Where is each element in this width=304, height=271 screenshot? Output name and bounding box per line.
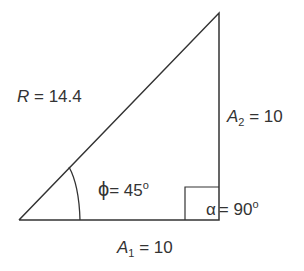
vertical-side-label: A2 = 10: [227, 107, 283, 128]
horizontal-side-label: A1 = 10: [117, 238, 173, 259]
triangle-drawing: [0, 0, 304, 271]
angle-arc: [69, 167, 80, 220]
phi-angle-label: ϕ= 45o: [98, 178, 149, 201]
hypotenuse-label: R = 14.4: [17, 87, 82, 107]
alpha-angle-label: α= 90o: [206, 198, 259, 220]
